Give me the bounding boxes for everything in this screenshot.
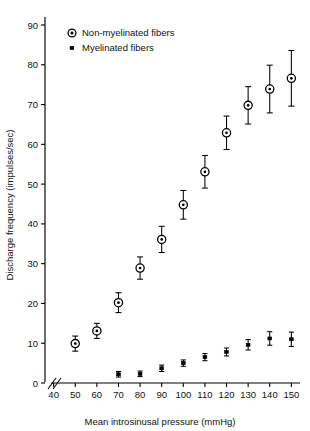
legend-item: Myelinated fibers bbox=[70, 42, 154, 53]
y-axis-title: Discharge frequency (impulses/sec) bbox=[4, 129, 15, 280]
data-point-marker bbox=[181, 362, 185, 365]
x-axis-tick-label: 60 bbox=[92, 389, 103, 400]
data-point-core bbox=[268, 88, 271, 91]
y-axis-tick-label: 60 bbox=[27, 139, 38, 150]
data-point-marker bbox=[203, 356, 207, 359]
data-point-core bbox=[139, 267, 142, 270]
x-axis-tick-label: 100 bbox=[175, 389, 191, 400]
y-axis-tick-label: 0 bbox=[33, 378, 38, 389]
y-axis-tick-label: 10 bbox=[27, 338, 38, 349]
data-point-marker bbox=[289, 338, 293, 341]
data-point-marker bbox=[246, 343, 250, 346]
data-point-core bbox=[96, 330, 99, 333]
x-axis-tick-label: 120 bbox=[219, 389, 235, 400]
x-axis-tick-label: 110 bbox=[197, 389, 212, 400]
x-axis-tick-label: 40 bbox=[48, 389, 59, 400]
data-point-marker bbox=[117, 373, 121, 376]
chart-background bbox=[0, 0, 310, 431]
dot-icon bbox=[70, 46, 74, 49]
y-axis-tick-label: 20 bbox=[27, 298, 38, 309]
data-point-marker bbox=[160, 367, 164, 370]
x-axis-tick-label: 80 bbox=[135, 389, 146, 400]
x-axis-tick-label: 150 bbox=[283, 389, 299, 400]
data-point-marker bbox=[225, 350, 229, 353]
legend-label: Non-myelinated fibers bbox=[82, 27, 175, 38]
data-point-core bbox=[290, 77, 293, 80]
y-axis-tick-label: 40 bbox=[27, 218, 38, 229]
data-point-core bbox=[247, 104, 250, 107]
data-point-core bbox=[160, 238, 163, 241]
x-axis-tick-label: 140 bbox=[262, 389, 278, 400]
discharge-frequency-scatter-plot: 0102030405060708090 40506070809010011012… bbox=[0, 0, 310, 431]
x-axis-tick-label: 70 bbox=[113, 389, 124, 400]
data-point-marker bbox=[268, 337, 272, 340]
y-axis-tick-label: 90 bbox=[27, 20, 38, 31]
y-axis-tick-label: 70 bbox=[27, 99, 38, 110]
data-point-core bbox=[117, 301, 120, 304]
data-point-core bbox=[74, 342, 77, 345]
data-point-core bbox=[182, 203, 185, 206]
data-point-core bbox=[204, 170, 207, 173]
circle-dot-icon bbox=[68, 29, 76, 37]
y-axis-tick-label: 80 bbox=[27, 59, 38, 70]
x-axis-tick-label: 90 bbox=[156, 389, 167, 400]
y-axis-tick-label: 50 bbox=[27, 179, 38, 190]
data-point-core bbox=[225, 131, 228, 134]
x-axis-tick-label: 50 bbox=[70, 389, 81, 400]
legend-label: Myelinated fibers bbox=[82, 42, 154, 53]
chart-figure: 0102030405060708090 40506070809010011012… bbox=[0, 0, 310, 431]
data-point-marker bbox=[138, 372, 142, 375]
y-axis-tick-label: 30 bbox=[27, 258, 38, 269]
x-axis-title: Mean introsinusal pressure (mmHg) bbox=[85, 416, 236, 427]
legend-item: Non-myelinated fibers bbox=[68, 27, 175, 38]
x-axis-tick-label: 130 bbox=[240, 389, 256, 400]
